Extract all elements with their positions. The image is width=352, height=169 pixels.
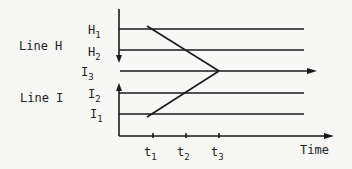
time-axis-label: Time (300, 144, 329, 156)
arrow-right-icon (324, 133, 334, 139)
i1-label: I1 (90, 108, 103, 120)
arrow-right-icon (307, 68, 317, 74)
line-i-label: Line I (20, 92, 63, 104)
i2-label: I2 (88, 88, 101, 100)
h2-label: H2 (88, 46, 101, 58)
h1-label: H1 (88, 24, 101, 36)
diagram: Line H Line I H1 H2 I3 I2 I1 t1 t2 t3 Ti… (0, 0, 352, 169)
transition-i-to-i3 (147, 71, 219, 117)
arrow-up-icon (116, 83, 122, 91)
line-h-label: Line H (19, 40, 62, 52)
i3-label: I3 (81, 66, 94, 78)
transition-h-to-i3 (147, 26, 219, 71)
t3-label: t3 (211, 146, 224, 158)
t2-label: t2 (177, 146, 190, 158)
t1-label: t1 (144, 146, 157, 158)
arrow-down-icon (116, 55, 122, 63)
